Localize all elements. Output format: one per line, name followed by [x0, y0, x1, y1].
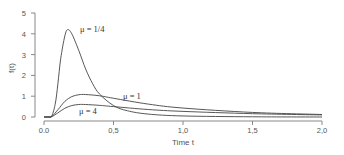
- y-tick-label: 5: [22, 9, 26, 18]
- x-tick-label: 0,5: [108, 126, 118, 135]
- y-tick-label: 1: [22, 92, 26, 101]
- x-tick-label: 2,0: [317, 126, 327, 135]
- x-axis-label: Time t: [172, 138, 195, 147]
- y-axis: 012345: [22, 9, 35, 122]
- annotation-mu-one: μ = 1: [123, 91, 141, 101]
- annotation-mu-four: μ = 4: [79, 106, 98, 116]
- annotation-mu-quarter: μ = 1/4: [80, 24, 105, 34]
- plot-area: [44, 30, 322, 117]
- y-tick-label: 3: [22, 51, 26, 60]
- x-tick-label: 0.0: [39, 126, 49, 135]
- x-axis: 0.00,51,01,52,0: [39, 121, 327, 135]
- y-tick-label: 0: [22, 113, 26, 122]
- chart: 012345 0.00,51,01,52,0 f(t) Time t μ = 1…: [0, 0, 344, 155]
- x-tick-label: 1,5: [247, 126, 257, 135]
- curve--1-4: [44, 30, 322, 117]
- y-tick-label: 2: [22, 71, 26, 80]
- y-tick-label: 4: [22, 30, 26, 39]
- x-tick-label: 1,0: [178, 126, 188, 135]
- y-axis-label: f(t): [7, 63, 16, 73]
